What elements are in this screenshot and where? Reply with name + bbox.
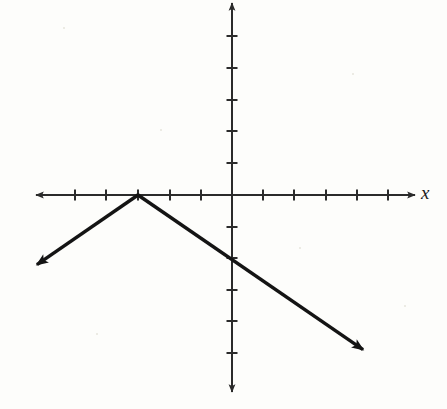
function-right-branch bbox=[138, 195, 363, 350]
function-left-branch bbox=[37, 195, 138, 265]
axes-group bbox=[36, 3, 415, 392]
function-vertex bbox=[136, 193, 139, 196]
function-graph bbox=[37, 193, 363, 349]
x-axis-label: x bbox=[421, 183, 429, 202]
graph-figure: x bbox=[0, 0, 447, 409]
coordinate-plane-svg bbox=[0, 0, 447, 409]
